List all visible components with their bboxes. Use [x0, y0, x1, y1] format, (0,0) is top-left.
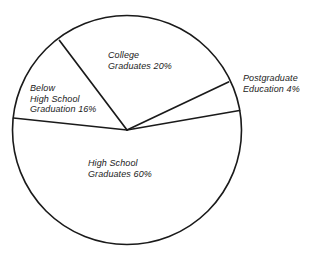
- slice-label-postgraduate-line-1: Postgraduate: [243, 73, 300, 84]
- slice-label-below-line-2: High School: [30, 94, 96, 105]
- pie-chart: College Graduates 20% Postgraduate Educa…: [0, 0, 316, 262]
- slice-label-postgraduate-education: Postgraduate Education 4%: [243, 73, 300, 94]
- slice-label-college-line-1: College: [108, 50, 172, 61]
- slice-label-below-high-school-graduation: Below High School Graduation 16%: [30, 83, 96, 115]
- slice-label-postgraduate-line-2: Education 4%: [243, 84, 300, 95]
- slice-label-below-line-3: Graduation 16%: [30, 104, 96, 115]
- slice-label-high-school-line-2: Graduates 60%: [88, 169, 152, 180]
- slice-label-high-school-graduates: High School Graduates 60%: [88, 158, 152, 179]
- slice-label-below-line-1: Below: [30, 83, 96, 94]
- slice-label-high-school-line-1: High School: [88, 158, 152, 169]
- pie-chart-graphic: [0, 0, 316, 262]
- slice-label-college-graduates: College Graduates 20%: [108, 50, 172, 71]
- slice-label-college-line-2: Graduates 20%: [108, 61, 172, 72]
